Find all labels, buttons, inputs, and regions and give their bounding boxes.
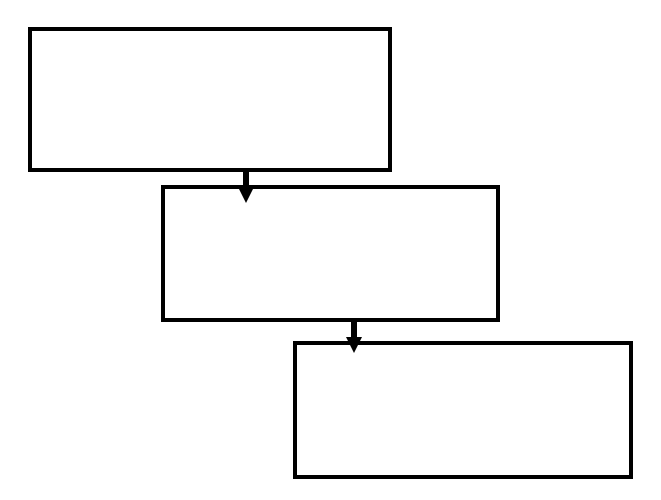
arrow-down-icon <box>344 319 364 355</box>
arrow-down-icon <box>236 169 256 205</box>
flowchart-box-2 <box>161 185 500 322</box>
flowchart-box-3 <box>293 341 633 479</box>
flowchart-box-1 <box>28 27 392 172</box>
flowchart-diagram <box>0 0 661 500</box>
